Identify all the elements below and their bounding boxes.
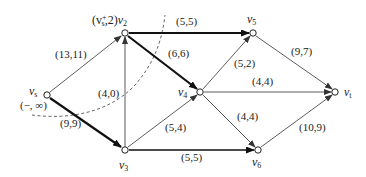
label-vs: vs: [29, 84, 37, 99]
node-v4: [197, 89, 203, 95]
node-v5: [250, 30, 256, 36]
cut-curve: [32, 15, 165, 116]
edge-label-v3-v6: (5,5): [181, 151, 202, 164]
label-v5: v5: [247, 12, 256, 27]
label-vt: vt: [344, 85, 352, 100]
label-v6: v6: [252, 155, 261, 170]
edge-label-v3-v2: (4,0): [98, 87, 119, 100]
label-v4: v4: [178, 85, 187, 100]
edge-label-v5-vt: (9,7): [291, 45, 312, 58]
edge-label-v4-vt: (4,4): [252, 75, 273, 88]
edge-vs-v2: [50, 36, 121, 92]
edge-label-v4-v5: (5,2): [234, 57, 255, 70]
edge-label-v6-vt: (10,9): [299, 121, 326, 134]
edge-label-v2-v4: (6,6): [168, 47, 189, 60]
node-vt: [332, 89, 338, 95]
edge-label-v4-v6: (4,4): [237, 110, 258, 123]
edge-label-vs-v3: (9,9): [60, 117, 81, 130]
edge-label-vs-v2: (13,11): [55, 48, 87, 61]
node-vs: [44, 92, 50, 98]
label-v3: v3: [119, 158, 128, 173]
flow-network-diagram: vs (−, ∞) (v+s,2)v2 v3 v4 v5 vt v6 (13,1…: [0, 0, 366, 177]
label-vs-extra: (−, ∞): [20, 99, 47, 112]
edge-v3-v4: [128, 95, 197, 147]
node-v6: [255, 147, 261, 153]
label-v2: (v+s,2)v2: [92, 13, 127, 28]
edge-label-v2-v5: (5,5): [176, 15, 197, 28]
node-v3: [122, 147, 128, 153]
node-v2: [122, 30, 128, 36]
edge-label-v3-v4: (5,4): [165, 121, 186, 134]
